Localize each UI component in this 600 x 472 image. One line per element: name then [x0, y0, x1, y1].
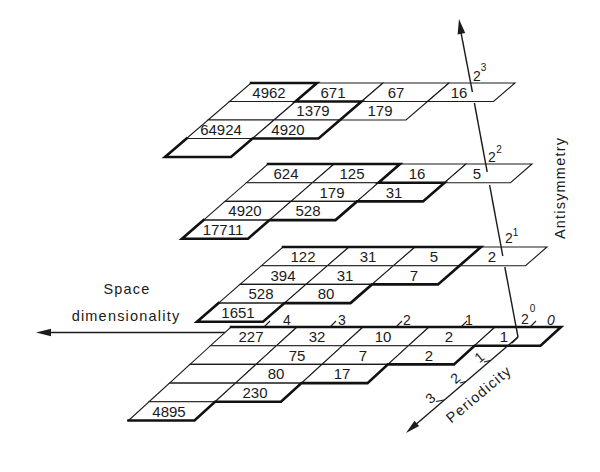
space-axis-label-line2: dimensionality	[72, 308, 181, 324]
cell-value: 80	[268, 365, 285, 382]
cell-value: 4962	[252, 84, 285, 101]
cell-value: 2	[445, 328, 453, 345]
dimension-tick-label: 3	[338, 312, 346, 328]
cell-value: 125	[339, 165, 364, 182]
cell-value: 31	[386, 184, 403, 201]
antisymmetry-level-base: 2	[521, 311, 529, 327]
cell-value: 75	[289, 347, 306, 364]
plane-antisymmetry-2-2: 624 125 16 5 179 31 4920 528 17711	[182, 164, 532, 239]
cell-value: 2	[425, 347, 433, 364]
cell-value: 179	[319, 184, 344, 201]
arrow-up-icon	[458, 19, 466, 34]
antisymmetry-level-exponent: 1	[513, 227, 519, 238]
cell-value: 1651	[221, 304, 254, 321]
plane-antisymmetry-2-3: 4962 671 67 16 1379 179 64924 4920	[165, 83, 515, 157]
cell-value: 80	[318, 285, 335, 302]
cell-value: 10	[375, 328, 392, 345]
space-axis-label-line1: Space	[103, 281, 150, 297]
cell-value: 528	[248, 285, 273, 302]
cell	[165, 139, 253, 158]
periodicity-tick-label: 3	[422, 389, 438, 406]
cell-value: 64924	[200, 121, 242, 138]
symmetry-groups-diagram: Space dimensionality 4962 671 67 16 1379…	[0, 0, 600, 472]
antisymmetry-axis-label: Antisymmetry	[552, 137, 568, 239]
cell-value: 67	[388, 84, 405, 101]
antisymmetry-axis-line	[474, 103, 487, 172]
cell-value: 227	[238, 328, 263, 345]
cell-value: 4920	[271, 121, 304, 138]
cell-value: 5	[430, 248, 438, 265]
cell-value: 179	[367, 102, 392, 119]
cell-value: 122	[290, 248, 315, 265]
cell-value: 671	[320, 84, 345, 101]
cell-value: 17711	[203, 221, 244, 238]
cell-value: 230	[242, 384, 267, 401]
cell-value: 16	[409, 165, 426, 182]
cell-value: 7	[410, 267, 418, 284]
periodicity-tick-label: 1	[471, 348, 487, 365]
space-dimensionality-axis: Space dimensionality	[36, 281, 225, 336]
dimension-tick-label: 4	[283, 312, 291, 328]
cell-value: 31	[360, 248, 377, 265]
cell-value: 5	[473, 165, 481, 182]
antisymmetry-level-exponent: 2	[496, 144, 502, 155]
cell-value: 17	[334, 365, 351, 382]
periodicity-tick-label: 2	[447, 369, 463, 386]
antisymmetry-axis-line	[490, 185, 503, 256]
dimension-tick-label: 1	[465, 312, 473, 328]
antisymmetry-level-exponent: 3	[481, 62, 487, 73]
cell-value: 394	[270, 267, 295, 284]
cell-value: 624	[273, 165, 298, 182]
arrow-left-icon	[36, 329, 51, 336]
antisymmetry-level-exponent: 0	[530, 303, 536, 314]
cell-value: 2	[488, 248, 496, 265]
cell-value: 1	[500, 328, 508, 345]
cell-value: 16	[451, 84, 468, 101]
cell-value: 528	[295, 202, 320, 219]
dimension-tick-label: 0	[547, 312, 555, 328]
cell-value: 7	[359, 347, 367, 364]
antisymmetry-level-base: 2	[488, 149, 496, 165]
cell-value: 31	[337, 267, 354, 284]
plane-antisymmetry-2-1: 122 31 5 2 394 31 7 528 80 1651	[197, 247, 547, 322]
dimension-tick-label: 2	[403, 312, 411, 328]
cell-value: 32	[309, 328, 326, 345]
cell-value: 4920	[228, 202, 261, 219]
space-dimension-ticks: 4 3 2 1 0	[264, 312, 555, 328]
cell-value: 1379	[296, 102, 329, 119]
cell-value: 4895	[152, 403, 185, 420]
